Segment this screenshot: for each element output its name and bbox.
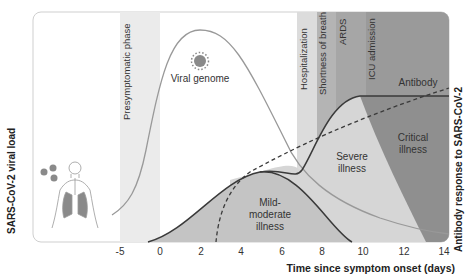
x-tick: 0: [157, 246, 163, 257]
disease-course-diagram: Presymptomatic phase Hospitalization Sho…: [0, 0, 471, 280]
x-tick: -5: [116, 246, 125, 257]
mild-label-3: illness: [256, 221, 284, 232]
hospitalization-label: Hospitalization: [298, 28, 309, 90]
x-tick: 6: [279, 246, 285, 257]
x-axis-title: Time since symptom onset (days): [287, 262, 455, 274]
x-tick: 14: [438, 246, 450, 257]
x-tick: 10: [357, 246, 369, 257]
ards-label: ARDS: [337, 19, 348, 45]
x-tick: 12: [398, 246, 410, 257]
presymptomatic-label: Presymptomatic phase: [121, 23, 132, 120]
mild-label-1: Mild-: [259, 197, 281, 208]
severe-label-2: illness: [338, 163, 366, 174]
shortness-of-breath-label: Shortness of breath: [317, 12, 328, 95]
x-tick: 8: [319, 246, 325, 257]
critical-label-2: illness: [399, 144, 427, 155]
viral-genome-label: Viral genome: [171, 73, 230, 84]
x-tick: 4: [238, 246, 244, 257]
x-tick: 2: [198, 246, 204, 257]
severe-label-1: Severe: [336, 151, 368, 162]
critical-label-1: Critical: [398, 132, 429, 143]
mild-label-2: moderate: [249, 209, 292, 220]
icu-admission-label: ICU admission: [366, 18, 377, 80]
antibody-label: Antibody: [399, 77, 438, 88]
